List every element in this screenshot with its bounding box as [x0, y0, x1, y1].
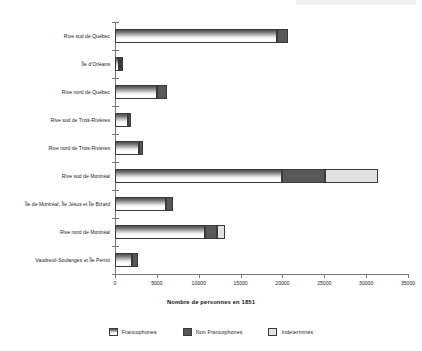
category-label: Rive sud de Trois-Rivières [0, 117, 110, 123]
bar-row[interactable] [115, 225, 225, 239]
bar-segment-non-francophones[interactable] [282, 169, 325, 183]
x-axis-tick [199, 274, 200, 278]
category-label: Rive nord de Trois-Rivières [0, 145, 110, 151]
bar-row[interactable] [115, 29, 288, 43]
non-francophones-swatch [183, 328, 192, 336]
bar-segment-francophones[interactable] [115, 141, 139, 155]
legend-label-francophones: Francophones [122, 329, 157, 335]
category-label: Rive nord de Québec [0, 89, 110, 95]
bar-segment-non-francophones[interactable] [157, 85, 167, 99]
bar-row[interactable] [115, 85, 167, 99]
x-axis-tick [115, 274, 116, 278]
bar-segment-non-francophones[interactable] [132, 253, 138, 267]
legend-label-non-francophones: Non Francophones [196, 329, 243, 335]
category-label: Rive sud de Montréal [0, 173, 110, 179]
bar-row[interactable] [115, 113, 131, 127]
bar-segment-francophones[interactable] [115, 29, 277, 43]
indetermines-swatch [268, 328, 277, 336]
legend-item-non-francophones[interactable]: Non Francophones [183, 328, 243, 336]
bar-segment-francophones[interactable] [115, 197, 166, 211]
x-axis-tick [408, 274, 409, 278]
bar-segment-non-francophones[interactable] [128, 113, 131, 127]
legend-item-francophones[interactable]: Francophones [109, 328, 157, 336]
category-label: Île d'Orléans [0, 61, 110, 67]
x-axis-tick-label: 0 [95, 280, 135, 287]
x-axis-tick [282, 274, 283, 278]
bar-chart: Rive sud de QuébecÎle d'OrléansRive nord… [0, 0, 422, 351]
category-tick [112, 162, 119, 163]
x-axis-tick-label: 30000 [346, 280, 386, 287]
legend-label-indetermines: Indéterminés [281, 329, 313, 335]
bar-segment-francophones[interactable] [115, 169, 282, 183]
legend-item-indetermines[interactable]: Indéterminés [268, 328, 313, 336]
bar-segment-indetermines[interactable] [217, 225, 225, 239]
x-axis-tick [241, 274, 242, 278]
legend: Francophones Non Francophones Indétermin… [0, 328, 422, 336]
category-tick [112, 22, 119, 23]
bar-segment-francophones[interactable] [115, 253, 132, 267]
category-tick [112, 106, 119, 107]
category-tick [112, 78, 119, 79]
bar-row[interactable] [115, 169, 378, 183]
bar-segment-non-francophones[interactable] [139, 141, 143, 155]
category-tick [112, 134, 119, 135]
category-tick [112, 50, 119, 51]
bar-segment-indetermines[interactable] [325, 169, 378, 183]
bar-row[interactable] [115, 253, 138, 267]
x-axis-tick-label: 10000 [179, 280, 219, 287]
scan-artifact [296, 0, 416, 5]
bar-segment-francophones[interactable] [115, 85, 157, 99]
category-tick [112, 246, 119, 247]
x-axis-tick-label: 20000 [262, 280, 302, 287]
x-axis-tick-label: 35000 [388, 280, 422, 287]
category-label: Rive nord de Montréal [0, 229, 110, 235]
x-axis-tick [366, 274, 367, 278]
bar-segment-francophones[interactable] [115, 225, 205, 239]
x-axis-line [115, 274, 408, 275]
bar-segment-non-francophones[interactable] [166, 197, 173, 211]
category-tick [112, 218, 119, 219]
category-label: Vaudreuil-Soulanges et Île Perrot [0, 257, 110, 263]
bar-segment-non-francophones[interactable] [277, 29, 288, 43]
bar-segment-non-francophones[interactable] [205, 225, 217, 239]
x-axis-tick-label: 15000 [221, 280, 261, 287]
bar-row[interactable] [115, 197, 173, 211]
category-tick [112, 190, 119, 191]
category-label: Île de Montréal, Île Jésus et Île Bizard [0, 201, 110, 207]
x-axis-tick-label: 25000 [304, 280, 344, 287]
x-axis-tick-label: 5000 [137, 280, 177, 287]
x-axis-tick [157, 274, 158, 278]
x-axis-title: Nombre de personnes en 1851 [0, 299, 422, 305]
bar-segment-francophones[interactable] [115, 113, 128, 127]
bar-segment-indetermines[interactable] [121, 57, 123, 71]
x-axis-tick [324, 274, 325, 278]
bar-row[interactable] [115, 57, 123, 71]
category-label: Rive sud de Québec [0, 33, 110, 39]
francophones-swatch [109, 328, 118, 336]
bar-row[interactable] [115, 141, 143, 155]
